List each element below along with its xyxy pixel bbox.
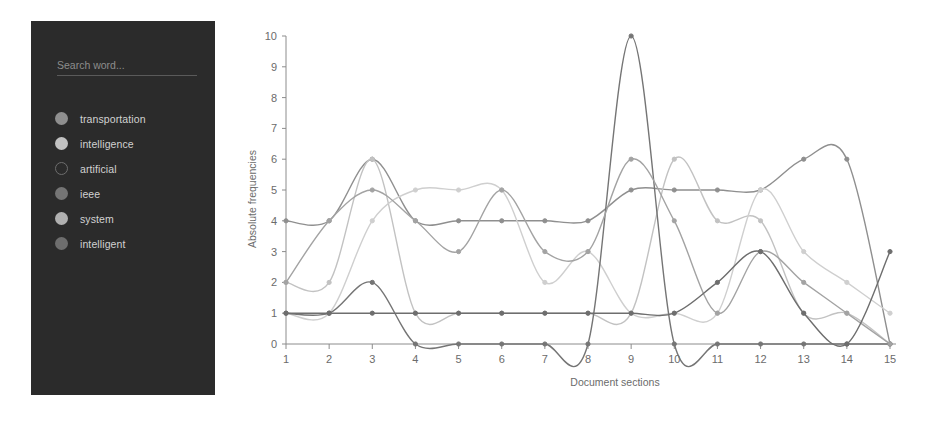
x-tick-label: 4 (412, 353, 418, 365)
series-point-ieee (672, 342, 676, 346)
x-tick-label: 1 (283, 353, 289, 365)
series-point-intelligent (413, 311, 417, 315)
x-tick-label: 8 (585, 353, 591, 365)
legend-color-dot-icon (55, 112, 68, 125)
series-point-artificial (845, 280, 849, 284)
series-intelligent (284, 250, 892, 347)
series-point-artificial (456, 188, 460, 192)
series-point-system (284, 280, 288, 284)
series-point-artificial (413, 188, 417, 192)
series-point-ieee (586, 342, 590, 346)
series-point-transportation (500, 219, 504, 223)
word-selector-panel: transportationintelligenceartificialieee… (31, 21, 215, 395)
series-system (284, 157, 892, 346)
series-point-system (715, 311, 719, 315)
series-point-intelligence (672, 157, 676, 161)
legend-item-intelligent[interactable]: intelligent (55, 231, 197, 256)
x-tick-label: 13 (798, 353, 810, 365)
y-tick-label: 7 (271, 122, 277, 134)
series-point-transportation (543, 219, 547, 223)
series-point-transportation (845, 157, 849, 161)
x-tick-label: 3 (369, 353, 375, 365)
x-axis: 123456789101112131415 (283, 344, 896, 365)
search-input[interactable] (57, 57, 197, 76)
search-field-wrapper (57, 55, 197, 76)
y-tick-label: 6 (271, 153, 277, 165)
series-point-intelligent (456, 311, 460, 315)
series-point-system (370, 188, 374, 192)
series-point-transportation (456, 219, 460, 223)
series-point-intelligent (758, 250, 762, 254)
x-tick-label: 14 (841, 353, 853, 365)
y-tick-label: 8 (271, 92, 277, 104)
y-tick-label: 0 (271, 338, 277, 350)
x-tick-label: 6 (499, 353, 505, 365)
series-point-transportation (629, 188, 633, 192)
x-tick-label: 9 (628, 353, 634, 365)
y-axis-title: Absolute frequencies (246, 150, 258, 248)
series-point-artificial (888, 311, 892, 315)
y-axis: 012345678910 (265, 30, 286, 350)
series-point-artificial (543, 280, 547, 284)
series-point-system (629, 157, 633, 161)
series-point-artificial (370, 219, 374, 223)
series-point-system (672, 219, 676, 223)
legend-color-dot-icon (55, 137, 68, 150)
legend-color-dot-icon (55, 187, 68, 200)
series-point-ieee (413, 342, 417, 346)
series-point-system (500, 188, 504, 192)
series-point-system (543, 250, 547, 254)
series-point-ieee (758, 342, 762, 346)
x-tick-label: 11 (712, 353, 723, 365)
legend-list: transportationintelligenceartificialieee… (55, 106, 197, 256)
series-point-transportation (802, 157, 806, 161)
series-point-system (413, 219, 417, 223)
series-point-system (456, 250, 460, 254)
legend-item-label: transportation (80, 113, 146, 125)
series-point-artificial (758, 188, 762, 192)
series-layer (284, 34, 892, 367)
legend-item-label: artificial (80, 163, 117, 175)
chart-canvas: 012345678910 123456789101112131415 Docum… (240, 14, 910, 414)
legend-item-artificial[interactable]: artificial (55, 156, 197, 181)
legend-item-label: system (80, 213, 114, 225)
y-tick-label: 4 (271, 215, 277, 227)
legend-item-label: ieee (80, 188, 100, 200)
y-tick-label: 3 (271, 246, 277, 258)
x-tick-label: 12 (754, 353, 766, 365)
series-point-intelligence (327, 280, 331, 284)
series-point-ieee (370, 280, 374, 284)
legend-item-ieee[interactable]: ieee (55, 181, 197, 206)
x-tick-label: 7 (542, 353, 548, 365)
frequency-line-chart: 012345678910 123456789101112131415 Docum… (240, 14, 910, 414)
series-point-system (586, 250, 590, 254)
series-point-intelligent (543, 311, 547, 315)
series-point-ieee (543, 342, 547, 346)
series-point-intelligent (284, 311, 288, 315)
series-point-intelligence (758, 219, 762, 223)
series-point-transportation (672, 188, 676, 192)
series-point-ieee (629, 34, 633, 38)
legend-item-system[interactable]: system (55, 206, 197, 231)
legend-color-dot-icon (55, 162, 68, 175)
series-point-transportation (586, 219, 590, 223)
legend-item-transportation[interactable]: transportation (55, 106, 197, 131)
legend-color-dot-icon (55, 212, 68, 225)
legend-item-intelligence[interactable]: intelligence (55, 131, 197, 156)
series-ieee (284, 34, 892, 367)
series-point-ieee (715, 342, 719, 346)
series-point-intelligence (715, 219, 719, 223)
series-point-system (888, 342, 892, 346)
legend-item-label: intelligence (80, 138, 134, 150)
series-transportation (284, 144, 892, 346)
series-point-artificial (802, 250, 806, 254)
series-point-intelligent (629, 311, 633, 315)
series-point-intelligent (500, 311, 504, 315)
series-point-intelligence (370, 157, 374, 161)
series-point-system (845, 311, 849, 315)
y-tick-label: 2 (271, 276, 277, 288)
series-point-intelligent (672, 311, 676, 315)
y-tick-label: 9 (271, 61, 277, 73)
series-point-intelligent (586, 311, 590, 315)
legend-item-label: intelligent (80, 238, 125, 250)
